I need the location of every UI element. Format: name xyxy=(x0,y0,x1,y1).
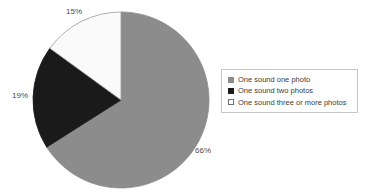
pie-chart: 66% 19% 15% One sound one photo One soun… xyxy=(0,0,373,194)
legend-swatch-black-icon xyxy=(228,88,234,94)
legend-label: One sound one photo xyxy=(238,76,310,84)
pie-slices xyxy=(33,12,209,188)
legend-swatch-gray-icon xyxy=(228,77,234,83)
legend-item-one-sound-one-photo[interactable]: One sound one photo xyxy=(228,74,352,85)
slice-value-label-one-sound-one-photo: 66% xyxy=(195,147,211,155)
legend-swatch-white-icon xyxy=(228,99,234,105)
chart-legend: One sound one photo One sound two photos… xyxy=(221,69,358,113)
legend-label: One sound three or more photos xyxy=(238,99,346,107)
slice-value-label-one-sound-two-photos: 19% xyxy=(12,92,28,100)
legend-label: One sound two photos xyxy=(238,87,313,95)
legend-item-one-sound-two-photos[interactable]: One sound two photos xyxy=(228,85,352,96)
slice-value-label-one-sound-three-or-more-photos: 15% xyxy=(66,8,82,16)
legend-item-one-sound-three-or-more-photos[interactable]: One sound three or more photos xyxy=(228,97,352,108)
